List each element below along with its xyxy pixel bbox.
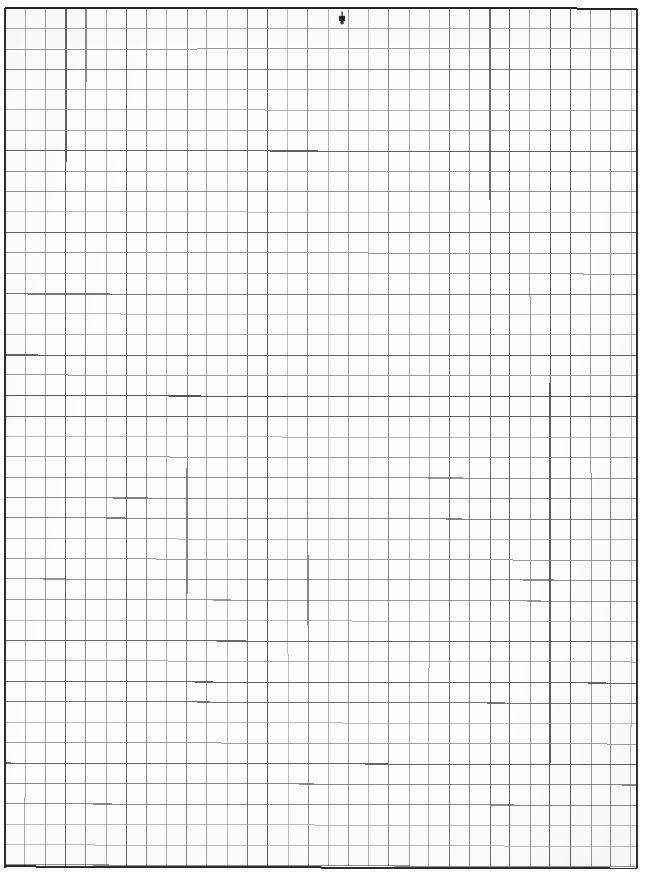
grid-horizontal-lines — [5, 8, 637, 867]
graph-paper-page — [0, 0, 649, 872]
grid-area — [0, 0, 649, 872]
grid-lines — [0, 0, 649, 872]
grid-border — [5, 8, 637, 869]
